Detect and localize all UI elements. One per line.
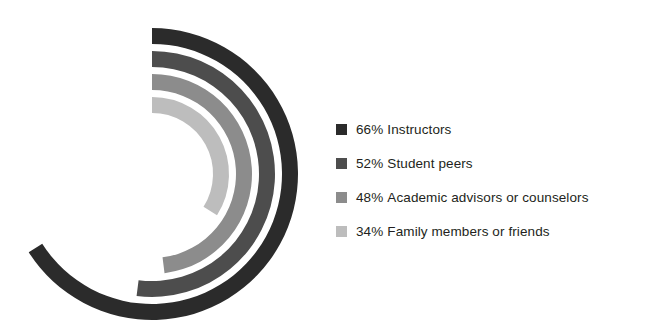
radial-bar-segment <box>29 28 298 320</box>
legend-swatch-icon <box>336 158 347 169</box>
radial-bar-chart-plot <box>0 0 330 336</box>
legend-item-student-peers: 52%Student peers <box>336 146 656 180</box>
legend-item-instructors: 66%Instructors <box>336 112 656 146</box>
legend-swatch-icon <box>336 124 347 135</box>
legend-item-label: 52%Student peers <box>356 156 473 171</box>
legend-item-value: 48% <box>356 190 383 205</box>
legend-item-value: 34% <box>356 224 383 239</box>
legend-item-label: 66%Instructors <box>356 122 451 137</box>
legend-item-text: Student peers <box>387 156 472 171</box>
chart-legend: 66%Instructors 52%Student peers 48%Acade… <box>336 112 656 248</box>
legend-item-text: Academic advisors or counselors <box>387 190 588 205</box>
radial-bar-chart-figure: 66%Instructors 52%Student peers 48%Acade… <box>0 0 662 336</box>
legend-item-value: 66% <box>356 122 383 137</box>
legend-item-text: Instructors <box>387 122 451 137</box>
legend-item-text: Family members or friends <box>387 224 549 239</box>
legend-item-label: 34%Family members or friends <box>356 224 550 239</box>
legend-item-academic-advisors: 48%Academic advisors or counselors <box>336 180 656 214</box>
legend-item-value: 52% <box>356 156 383 171</box>
legend-item-label: 48%Academic advisors or counselors <box>356 190 589 205</box>
legend-swatch-icon <box>336 192 347 203</box>
legend-swatch-icon <box>336 226 347 237</box>
legend-item-family-friends: 34%Family members or friends <box>336 214 656 248</box>
arc-group <box>29 28 298 320</box>
